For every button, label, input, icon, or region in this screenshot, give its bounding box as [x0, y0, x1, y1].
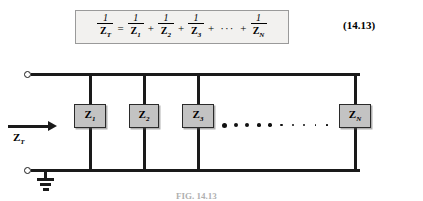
ground-bar-2 — [40, 183, 51, 186]
total-impedance-label: ZT — [13, 131, 25, 146]
ellipsis-dot — [326, 124, 327, 125]
impedance-subscript: N — [356, 115, 361, 123]
total-impedance-subscript: T — [20, 138, 24, 146]
fraction-z3: 1 Z3 — [188, 13, 204, 41]
impedance-box-2: Z2 — [129, 104, 159, 128]
equals-sign: = — [117, 21, 123, 34]
fraction-denominator: Z3 — [189, 24, 203, 41]
bottom-rail-wire — [31, 169, 360, 172]
impedance-box-n: ZN — [339, 104, 371, 128]
terminal-bottom-node — [24, 167, 31, 174]
impedance-box-1: Z1 — [74, 104, 106, 128]
ellipsis-dot — [315, 124, 317, 126]
ellipsis-dot — [280, 124, 283, 127]
plus-sign: + — [148, 21, 154, 34]
ground-stem — [44, 169, 47, 178]
circuit-diagram: ZT Z1Z2Z3ZN — [0, 55, 423, 201]
total-impedance-arrow-shaft — [8, 125, 50, 128]
ellipsis-dot — [222, 123, 227, 128]
plus-sign: + — [208, 21, 214, 34]
fraction-numerator: 1 — [160, 13, 171, 23]
impedance-label: Z1 — [85, 109, 96, 123]
fraction-zn: 1 ZN — [251, 13, 267, 41]
total-impedance-arrow-head — [48, 121, 57, 131]
impedance-subscript: 1 — [92, 115, 96, 123]
fraction-numerator: 1 — [100, 13, 111, 23]
fraction-numerator: 1 — [253, 13, 264, 23]
ground-bar-3 — [43, 188, 49, 191]
ellipsis-dot — [292, 124, 294, 126]
terminal-top-node — [24, 71, 31, 78]
impedance-subscript: 3 — [200, 115, 204, 123]
denominator-subscript: 3 — [198, 31, 202, 39]
fraction-total-impedance: 1 ZT — [97, 13, 113, 41]
equation-ellipsis: ··· — [220, 21, 234, 34]
denominator-subscript: T — [107, 31, 111, 39]
fraction-z1: 1 Z1 — [128, 13, 144, 41]
ellipsis-dot — [234, 123, 239, 128]
impedance-box-3: Z3 — [182, 104, 214, 128]
figure-caption: FIG. 14.13 — [176, 191, 217, 201]
denominator-subscript: 1 — [137, 31, 141, 39]
fraction-numerator: 1 — [130, 13, 141, 23]
impedance-label: Z3 — [193, 109, 204, 123]
equation-box: 1 ZT = 1 Z1 + 1 Z2 + 1 Z3 + ··· + 1 ZN — [75, 10, 289, 44]
fraction-z2: 1 Z2 — [158, 13, 174, 41]
impedance-label: Z2 — [139, 109, 150, 123]
top-rail-wire — [31, 73, 360, 76]
fraction-denominator: ZN — [251, 24, 267, 41]
ellipsis-dot — [303, 124, 305, 126]
ellipsis-dot — [268, 123, 271, 126]
fraction-denominator: Z1 — [129, 24, 143, 41]
ellipsis-dot — [245, 123, 249, 127]
plus-sign: + — [178, 21, 184, 34]
ellipsis-dots — [222, 119, 334, 133]
equation-expression: 1 ZT = 1 Z1 + 1 Z2 + 1 Z3 + ··· + 1 ZN — [96, 13, 267, 41]
impedance-subscript: 2 — [146, 115, 150, 123]
ground-bar-1 — [37, 178, 54, 181]
fraction-denominator: ZT — [98, 24, 113, 41]
denominator-subscript: N — [259, 31, 264, 39]
fraction-denominator: Z2 — [159, 24, 173, 41]
denominator-subscript: 2 — [167, 31, 171, 39]
fraction-numerator: 1 — [191, 13, 202, 23]
plus-sign: + — [240, 21, 246, 34]
ellipsis-dot — [257, 123, 261, 127]
equation-number: (14.13) — [343, 19, 375, 31]
impedance-label: ZN — [349, 109, 361, 123]
